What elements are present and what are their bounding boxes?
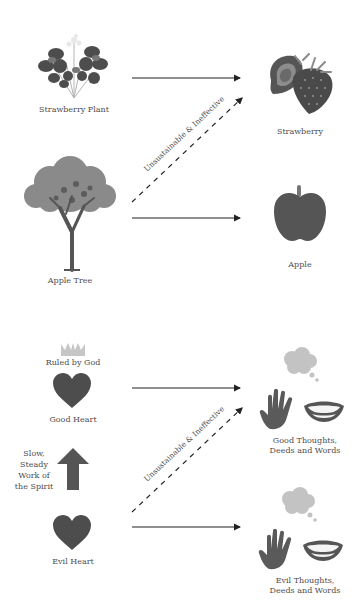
spirit-work-line-3: Work of — [14, 470, 54, 481]
dashed-arrow-label-1: Unsustainable & Ineffective — [142, 94, 226, 173]
evil-heart-label: Evil Heart — [23, 557, 123, 567]
good-fruit-label: Good Thoughts, Deeds and Words — [255, 436, 355, 456]
evil-fruit-label: Evil Thoughts, Deeds and Words — [255, 576, 355, 596]
good-fruit-label-line-2: Deeds and Words — [255, 446, 355, 456]
evil-fruit-label-line-1: Evil Thoughts, — [255, 576, 355, 586]
strawberry-plant-icon — [36, 32, 112, 102]
spirit-work-line-2: Steady — [14, 459, 54, 470]
apple-tree-label: Apple Tree — [20, 276, 120, 286]
up-arrow-icon — [57, 448, 89, 490]
spirit-work-label: Slow, Steady Work of the Spirit — [14, 448, 54, 492]
apple-icon — [272, 183, 328, 243]
evil-mouth-icon — [302, 539, 344, 561]
good-mouth-icon — [303, 400, 345, 422]
spirit-work-line-4: the Spirit — [14, 481, 54, 492]
evil-fruit-label-line-2: Deeds and Words — [255, 586, 355, 596]
good-heart-label: Good Heart — [23, 415, 123, 425]
good-heart-icon — [52, 373, 92, 409]
apple-tree-icon — [20, 152, 120, 274]
dashed-arrow-evil-heart-to-good-fruit — [132, 408, 242, 512]
evil-heart-icon — [52, 515, 92, 551]
strawberry-icon — [265, 50, 337, 116]
crown-label: Ruled by God — [23, 358, 123, 368]
strawberry-label: Strawberry — [260, 127, 340, 137]
crown-icon — [60, 341, 86, 355]
spirit-work-line-1: Slow, — [14, 448, 54, 459]
dashed-arrow-label-2: Unsustainable & Ineffective — [142, 404, 226, 483]
evil-thought-bubble-icon — [278, 487, 320, 523]
dashed-arrow-apple-tree-to-strawberry — [132, 98, 242, 202]
good-hand-icon — [258, 389, 298, 431]
apple-label: Apple — [260, 260, 340, 270]
strawberry-plant-label: Strawberry Plant — [24, 105, 124, 115]
good-thought-bubble-icon — [280, 347, 322, 383]
evil-hand-icon — [257, 529, 297, 571]
good-fruit-label-line-1: Good Thoughts, — [255, 436, 355, 446]
